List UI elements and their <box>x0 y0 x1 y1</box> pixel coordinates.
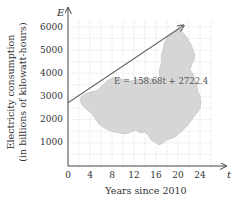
y-tick-labels: 1000 2000 3000 4000 5000 6000 <box>40 22 63 147</box>
y-tick: 1000 <box>40 137 63 147</box>
x-tick: 12 <box>128 170 139 180</box>
y-tick: 4000 <box>40 68 63 78</box>
chart: E = 158.68t + 2722.4 t E 0 4 8 12 16 20 … <box>0 0 244 203</box>
china-map-silhouette <box>80 28 201 145</box>
y-tick: 3000 <box>40 91 63 101</box>
y-tick: 2000 <box>40 114 63 124</box>
equation-annotation: E = 158.68t + 2722.4 <box>114 76 208 86</box>
x-tick: 0 <box>65 170 71 180</box>
x-tick: 16 <box>150 170 162 180</box>
x-tick-labels: 0 4 8 12 16 20 24 <box>65 170 206 180</box>
x-axis-title: Years since 2010 <box>104 185 186 196</box>
y-axis-variable: E <box>56 7 65 18</box>
x-tick: 20 <box>172 170 184 180</box>
x-tick: 8 <box>109 170 115 180</box>
y-axis-title-line1: Electricity consumption <box>5 35 16 150</box>
x-tick: 24 <box>194 170 206 180</box>
y-tick: 5000 <box>40 45 63 55</box>
x-tick: 4 <box>87 170 93 180</box>
x-axis-variable: t <box>227 169 232 180</box>
y-axis-title-line2: (in billions of kilowatt-hours) <box>17 22 28 161</box>
y-tick: 6000 <box>40 22 63 32</box>
